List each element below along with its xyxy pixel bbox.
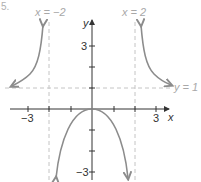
y-axis-label: y xyxy=(83,18,89,29)
asymptote-label-left: x = −2 xyxy=(35,7,66,18)
asymptote-lines xyxy=(5,22,170,180)
left-branch xyxy=(12,25,43,86)
graph-canvas xyxy=(0,0,201,182)
x-tick-label-3: 3 xyxy=(153,113,159,124)
asymptote-label-right: x = 2 xyxy=(122,7,146,18)
asymptote-label-horizontal: y = 1 xyxy=(174,82,198,93)
x-tick-label-neg3: −3 xyxy=(21,113,34,124)
right-branch xyxy=(141,25,171,85)
y-tick-label-3: 3 xyxy=(81,41,87,52)
problem-number: 5. xyxy=(1,2,9,12)
axes xyxy=(10,20,169,180)
graph-figure: 5. x = −2 x = 2 y = 1 y x −3 3 3 −3 xyxy=(0,0,201,182)
y-tick-label-neg3: −3 xyxy=(76,167,89,178)
x-axis-label: x xyxy=(168,112,174,123)
